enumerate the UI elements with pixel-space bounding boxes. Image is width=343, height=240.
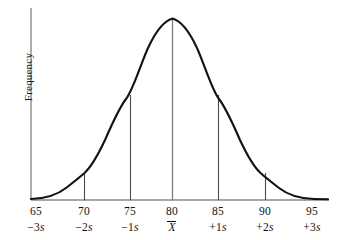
x-tick-value: 75: [108, 204, 152, 218]
x-tick-sigma: −3s: [14, 220, 58, 234]
x-tick-sigma: −2s: [62, 220, 106, 234]
x-tick-sigma: +2s: [243, 220, 287, 234]
x-tick-label-75: 75 −1s: [108, 204, 152, 234]
x-tick-label-85: 85 +1s: [196, 204, 240, 234]
x-tick-value: 85: [196, 204, 240, 218]
x-tick-value: 70: [62, 204, 106, 218]
bell-curve-path: [31, 19, 328, 200]
x-tick-value: 90: [243, 204, 287, 218]
x-tick-value: 95: [290, 204, 334, 218]
x-tick-sigma: +1s: [196, 220, 240, 234]
x-tick-sigma: −1s: [108, 220, 152, 234]
x-tick-sigma-mean: X: [150, 220, 194, 234]
x-tick-label-80-mean: 80 X: [150, 204, 194, 234]
x-tick-label-95: 95 +3s: [290, 204, 334, 234]
x-tick-label-90: 90 +2s: [243, 204, 287, 234]
normal-distribution-chart: Frequency 65 −3s 70 −2s 75 −1s 80 X 85 +…: [0, 0, 343, 240]
x-tick-label-70: 70 −2s: [62, 204, 106, 234]
x-tick-label-65: 65 −3s: [14, 204, 58, 234]
x-tick-sigma: +3s: [290, 220, 334, 234]
x-tick-value: 80: [150, 204, 194, 218]
x-tick-value: 65: [14, 204, 58, 218]
y-axis-label: Frequency: [20, 2, 36, 152]
